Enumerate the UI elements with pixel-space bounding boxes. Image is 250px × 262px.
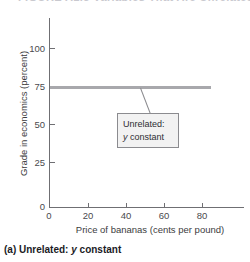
x-tick-mark-20 xyxy=(88,203,89,208)
annotation-line-2: y constant xyxy=(123,131,178,144)
annotation-leader-line xyxy=(140,88,151,114)
x-tick-label-40: 40 xyxy=(114,210,138,221)
y-axis-line xyxy=(49,18,50,208)
x-tick-label-80: 80 xyxy=(190,210,214,221)
caption-prefix: (a) Unrelated: xyxy=(4,244,68,255)
figure-caption: (a) Unrelated: y constant xyxy=(4,244,121,255)
chart-plot-area: 100 75 50 25 0 0 20 40 60 80 Grade in ec… xyxy=(0,0,250,240)
y-tick-mark-50 xyxy=(50,124,55,125)
y-axis-label: Grade in economics (percent) xyxy=(18,29,29,199)
x-tick-label-20: 20 xyxy=(76,210,100,221)
x-tick-label-0: 0 xyxy=(37,210,61,221)
data-series-line-y-constant xyxy=(50,86,211,89)
x-tick-mark-60 xyxy=(164,203,165,208)
x-axis-label: Price of bananas (cents per pound) xyxy=(52,224,248,235)
y-tick-mark-100 xyxy=(50,48,55,49)
annotation-callout: Unrelated: y constant xyxy=(117,113,179,148)
y-tick-mark-25 xyxy=(50,162,55,163)
x-tick-label-60: 60 xyxy=(152,210,176,221)
x-tick-mark-40 xyxy=(126,203,127,208)
x-tick-mark-80 xyxy=(202,203,203,208)
caption-suffix: constant xyxy=(80,244,122,255)
x-axis-line xyxy=(49,207,244,208)
annotation-line-2-rest: constant xyxy=(128,132,165,142)
annotation-line-1: Unrelated: xyxy=(123,118,178,131)
